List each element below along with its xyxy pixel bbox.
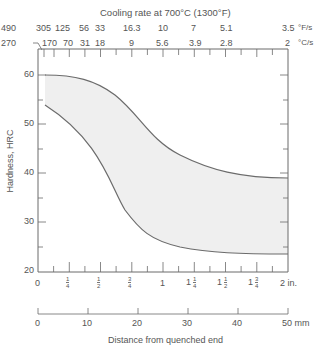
x-mm-tick-label: 40 [232, 318, 242, 328]
tick-label: 3.5 [282, 23, 295, 33]
x-mm-tick-label: 50 mm [282, 318, 310, 328]
y-axis-label: Hardness, HRC [5, 129, 15, 193]
x-mm-tick-label: 20 [132, 318, 142, 328]
x-mm-tick-label: 10 [82, 318, 92, 328]
y-tick-label: 30 [24, 216, 34, 226]
x-tick-label: 1 [160, 278, 165, 288]
tick-label: 305 [36, 23, 51, 33]
tick-label: 170 [42, 38, 57, 48]
unit-label: °C/s [298, 38, 313, 47]
tick-label: 270 [1, 38, 16, 48]
tick-label: 5.6 [156, 38, 169, 48]
tick-label: 70 [63, 38, 73, 48]
x-axis-label: Distance from quenched end [108, 335, 223, 345]
x-tick-one-quarter: 114 [186, 276, 196, 289]
tick-label: 3.9 [189, 38, 202, 48]
x-tick-one-three-quarters: 134 [248, 276, 258, 289]
tick-label: 490 [1, 23, 16, 33]
tick-label: 5.1 [220, 23, 233, 33]
x-tick-fraction-half: 12 [97, 276, 100, 289]
x-tick-label: 2 in. [280, 278, 297, 288]
tick-label: 56 [79, 23, 89, 33]
x-tick-fraction-quarter: 14 [66, 276, 69, 289]
x-tick-fraction-three-quarters: 34 [128, 276, 131, 289]
tick-label: 9 [129, 38, 134, 48]
unit-label: °F/s [298, 23, 312, 32]
tick-label: 2 [285, 38, 290, 48]
tick-label: 10 [158, 23, 168, 33]
y-tick-label: 40 [24, 167, 34, 177]
top-axis-title: Cooling rate at 700°C (1300°F) [100, 7, 231, 18]
tick-label: 33 [95, 23, 105, 33]
hardness-band [45, 75, 288, 254]
x-mm-tick-label: 30 [182, 318, 192, 328]
y-tick-label: 50 [24, 118, 34, 128]
x-tick-one-half: 112 [217, 276, 227, 289]
tick-label: 125 [55, 23, 70, 33]
x-mm-axis [38, 308, 288, 314]
y-tick-label: 20 [24, 265, 34, 275]
tick-label: 7 [191, 23, 196, 33]
tick-label: 16.3 [123, 23, 141, 33]
tick-label: 18 [95, 38, 105, 48]
tick-label: 31 [80, 38, 90, 48]
x-tick-label: 0 [35, 278, 40, 288]
x-mm-tick-label: 0 [35, 318, 40, 328]
tick-label: 2.8 [220, 38, 233, 48]
top-axis-ticks [44, 49, 272, 57]
chart-canvas: Hardness, HRC [0, 0, 319, 350]
y-tick-label: 60 [24, 69, 34, 79]
x-inch-ticks [54, 262, 273, 272]
